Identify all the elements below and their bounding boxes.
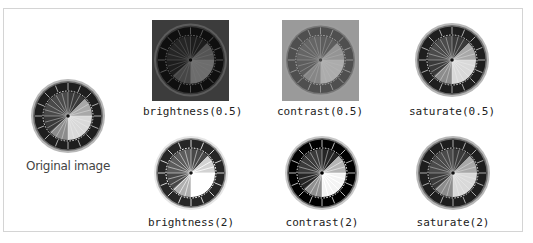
tile-saturate-high xyxy=(415,135,491,211)
caption-contrast-high: contrast(2) xyxy=(274,216,370,229)
tile-contrast-high xyxy=(284,135,360,211)
roulette-wheel-image xyxy=(415,135,491,211)
caption-contrast-low: contrast(0.5) xyxy=(272,105,368,118)
caption-brightness-high: brightness(2) xyxy=(143,216,239,229)
roulette-wheel-image xyxy=(284,135,360,211)
tile-saturate-low xyxy=(414,22,490,98)
roulette-wheel-image xyxy=(414,22,490,98)
roulette-wheel-image xyxy=(152,20,229,101)
caption-brightness-low: brightness(0.5) xyxy=(143,105,239,118)
tile-original xyxy=(30,78,106,154)
caption-original: Original image xyxy=(24,159,112,173)
caption-saturate-high: saturate(2) xyxy=(405,216,501,229)
tile-brightness-high xyxy=(153,135,229,211)
roulette-wheel-image xyxy=(282,20,359,101)
tile-brightness-low xyxy=(152,20,229,101)
roulette-wheel-image xyxy=(30,78,106,154)
roulette-wheel-image xyxy=(153,135,229,211)
tile-contrast-low xyxy=(282,20,359,101)
caption-saturate-low: saturate(0.5) xyxy=(404,105,500,118)
